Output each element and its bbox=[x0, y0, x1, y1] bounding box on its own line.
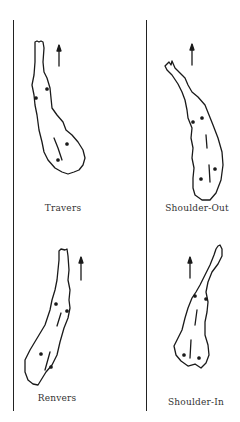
direction-arrow-icon bbox=[188, 257, 192, 278]
label-shoulder-out: Shoulder-Out bbox=[165, 203, 229, 213]
direction-arrow-icon bbox=[57, 45, 61, 66]
label-travers: Travers bbox=[45, 203, 81, 213]
label-shoulder-in: Shoulder-In bbox=[168, 397, 224, 407]
direction-arrow-icon bbox=[79, 257, 83, 280]
horse-shoulder-out-diagram bbox=[165, 61, 223, 200]
direction-arrow-icon bbox=[190, 44, 194, 65]
label-renvers: Renvers bbox=[38, 393, 77, 403]
horse-shoulder-in-diagram bbox=[174, 245, 222, 368]
horse-renvers-diagram bbox=[25, 249, 70, 385]
